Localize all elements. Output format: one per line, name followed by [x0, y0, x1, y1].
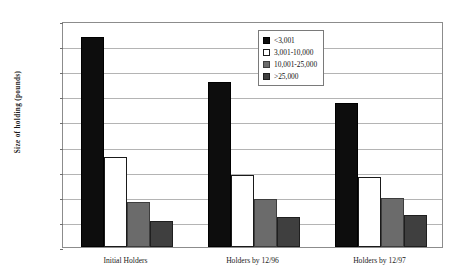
bar: [381, 198, 404, 247]
plot-area: [62, 22, 443, 248]
bar: [254, 199, 277, 247]
bar: [335, 103, 358, 247]
x-axis-tick-label: Holders by 12/97: [353, 256, 406, 265]
legend-swatch-icon: [263, 73, 270, 80]
bar: [81, 37, 104, 247]
legend-swatch-icon: [263, 37, 270, 44]
legend-swatch-icon: [263, 49, 270, 56]
legend-item-label: 3,001-10,000: [274, 48, 313, 57]
legend-swatch-icon: [263, 61, 270, 68]
bar: [127, 202, 150, 247]
y-axis-title: Size of holding (pounds): [14, 32, 22, 192]
bar: [208, 82, 231, 247]
legend-item-label: 10,001-25,000: [274, 60, 317, 69]
legend-item-label: <3,001: [274, 36, 295, 45]
legend-item: 10,001-25,000: [263, 58, 317, 70]
legend: <3,0013,001-10,00010,001-25,000>25,000: [258, 30, 324, 86]
legend-item: >25,000: [263, 70, 317, 82]
bar-group: [81, 23, 173, 247]
bar: [231, 175, 254, 247]
legend-item-label: >25,000: [274, 72, 299, 81]
x-axis-tick-label: Holders by 12/96: [226, 256, 279, 265]
bar: [150, 221, 173, 247]
bar-chart: Size of holding (pounds) -5001,0001,5002…: [0, 0, 465, 277]
y-axis-tick-mark: [60, 249, 63, 250]
bar: [404, 215, 427, 247]
bar: [277, 217, 300, 247]
legend-item: <3,001: [263, 34, 317, 46]
bar: [104, 157, 127, 247]
x-axis-tick-label: Initial Holders: [103, 256, 147, 265]
bar-group: [335, 23, 427, 247]
legend-item: 3,001-10,000: [263, 46, 317, 58]
bars-layer: [63, 23, 442, 247]
bar: [358, 177, 381, 247]
